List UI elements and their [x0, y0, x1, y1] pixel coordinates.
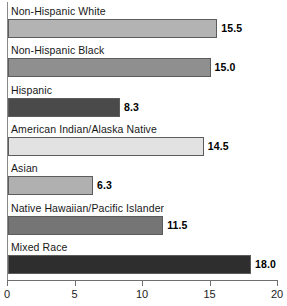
x-axis-tick [142, 281, 143, 286]
bar-row: Non-Hispanic Black15.0 [0, 41, 287, 80]
bar [8, 137, 204, 156]
bar [8, 255, 251, 274]
category-label: Native Hawaiian/Pacific Islander [11, 202, 164, 215]
bar-row: American Indian/Alaska Native14.5 [0, 120, 287, 159]
x-axis-tick [7, 281, 8, 286]
x-axis-tick [210, 281, 211, 286]
category-label: Asian [11, 162, 38, 175]
category-label: Non-Hispanic White [11, 5, 106, 18]
bar [8, 58, 211, 77]
x-axis-tick-label: 20 [262, 288, 287, 301]
bar-row: Mixed Race18.0 [0, 238, 287, 277]
bar [8, 216, 163, 235]
bar-row: Hispanic8.3 [0, 81, 287, 120]
x-axis-tick [75, 281, 76, 286]
x-axis-tick-label: 0 [0, 288, 22, 301]
bar-value-label: 15.0 [215, 61, 236, 74]
bar-value-label: 8.3 [124, 101, 139, 114]
category-label: Non-Hispanic Black [11, 44, 104, 57]
bar-value-label: 14.5 [208, 140, 229, 153]
category-label: Hispanic [11, 84, 52, 97]
bar-row: Non-Hispanic White15.5 [0, 2, 287, 41]
bar [8, 176, 93, 195]
bar [8, 98, 120, 117]
bar-value-label: 6.3 [97, 179, 112, 192]
bar-value-label: 15.5 [221, 22, 242, 35]
category-label: American Indian/Alaska Native [11, 123, 157, 136]
category-label: Mixed Race [11, 241, 67, 254]
bar-row: Asian6.3 [0, 159, 287, 198]
x-axis-tick-label: 5 [60, 288, 90, 301]
x-axis-tick-label: 10 [127, 288, 157, 301]
plot-area: 05101520 Non-Hispanic White15.5Non-Hispa… [0, 0, 287, 306]
bar [8, 19, 217, 38]
x-axis-tick-label: 15 [195, 288, 225, 301]
bar-row: Native Hawaiian/Pacific Islander11.5 [0, 199, 287, 238]
bar-chart: 05101520 Non-Hispanic White15.5Non-Hispa… [0, 0, 287, 306]
bar-value-label: 11.5 [167, 219, 187, 232]
x-axis-tick [277, 281, 278, 286]
bar-value-label: 18.0 [255, 258, 276, 271]
